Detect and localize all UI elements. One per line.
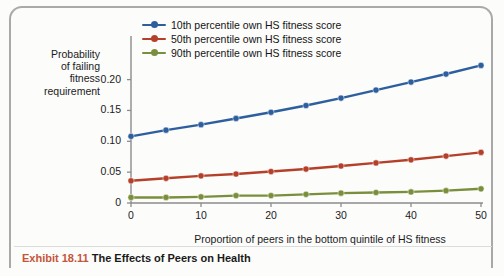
chart-legend: 10th percentile own HS fitness score 50t… bbox=[142, 18, 392, 60]
data-point bbox=[373, 160, 379, 166]
legend-dot-2 bbox=[151, 49, 158, 56]
legend-item: 90th percentile own HS fitness score bbox=[142, 46, 392, 60]
x-tick-label: 30 bbox=[328, 209, 354, 221]
legend-label: 10th percentile own HS fitness score bbox=[171, 19, 341, 31]
legend-dot-1 bbox=[151, 35, 158, 42]
legend-marker-icon bbox=[142, 19, 166, 31]
data-point bbox=[478, 149, 484, 155]
data-point bbox=[303, 191, 309, 197]
x-tick-label: 40 bbox=[398, 209, 424, 221]
y-tick-label: 0.20 bbox=[91, 73, 121, 85]
data-point bbox=[373, 189, 379, 195]
legend-label: 50th percentile own HS fitness score bbox=[171, 33, 341, 45]
legend-marker-icon bbox=[142, 47, 166, 59]
data-point bbox=[128, 178, 134, 184]
data-point bbox=[408, 189, 414, 195]
data-point bbox=[443, 188, 449, 194]
legend-item: 50th percentile own HS fitness score bbox=[142, 32, 392, 46]
caption-exhibit-number: Exhibit 18.11 bbox=[22, 252, 89, 264]
data-point bbox=[443, 71, 449, 77]
data-point bbox=[233, 115, 239, 121]
figure-container: Probability of failing fitness requireme… bbox=[0, 0, 504, 276]
legend-marker-icon bbox=[142, 33, 166, 45]
data-point bbox=[233, 193, 239, 199]
y-tick-label: 0.10 bbox=[91, 134, 121, 146]
data-point bbox=[338, 190, 344, 196]
x-tick-label: 10 bbox=[188, 209, 214, 221]
x-tick-label: 20 bbox=[258, 209, 284, 221]
y-tick-label: 0.15 bbox=[91, 103, 121, 115]
data-point bbox=[408, 79, 414, 85]
legend-label: 90th percentile own HS fitness score bbox=[171, 47, 341, 59]
data-point bbox=[268, 109, 274, 115]
x-axis-label: Proportion of peers in the bottom quinti… bbox=[150, 233, 490, 245]
legend-item: 10th percentile own HS fitness score bbox=[142, 18, 392, 32]
data-point bbox=[128, 194, 134, 200]
x-tick-label: 0 bbox=[118, 209, 144, 221]
y-axis-label: Probability of failing fitness requireme… bbox=[24, 48, 100, 97]
data-point bbox=[233, 171, 239, 177]
data-point bbox=[408, 157, 414, 163]
data-point bbox=[373, 87, 379, 93]
y-tick-label: 0 bbox=[91, 196, 121, 208]
chart-series-0 bbox=[128, 62, 484, 139]
chart-series-1 bbox=[128, 149, 484, 184]
data-point bbox=[303, 166, 309, 172]
chart-series-2 bbox=[128, 186, 484, 201]
data-point bbox=[268, 193, 274, 199]
legend-dot-0 bbox=[151, 21, 158, 28]
data-point bbox=[163, 127, 169, 133]
data-point bbox=[443, 153, 449, 159]
data-point bbox=[478, 62, 484, 68]
caption-title-text: The Effects of Peers on Health bbox=[92, 252, 251, 264]
data-point bbox=[163, 175, 169, 181]
data-point bbox=[198, 194, 204, 200]
data-point bbox=[163, 194, 169, 200]
data-point bbox=[198, 173, 204, 179]
data-point bbox=[268, 168, 274, 174]
data-point bbox=[303, 102, 309, 108]
y-tick-label: 0.05 bbox=[91, 165, 121, 177]
figure-caption: Exhibit 18.11 The Effects of Peers on He… bbox=[22, 252, 251, 264]
caption-divider bbox=[14, 246, 492, 247]
data-point bbox=[338, 95, 344, 101]
data-point bbox=[128, 133, 134, 139]
data-point bbox=[198, 122, 204, 128]
x-tick-label: 50 bbox=[468, 209, 494, 221]
data-point bbox=[338, 163, 344, 169]
data-point bbox=[478, 186, 484, 192]
